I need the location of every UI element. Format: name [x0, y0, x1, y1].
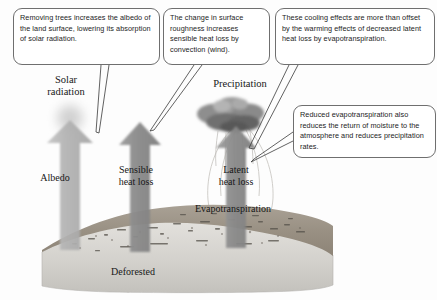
diagram-canvas: Removing trees increases the albedo of t…: [0, 0, 437, 300]
callout-leader-lines: [0, 0, 437, 300]
